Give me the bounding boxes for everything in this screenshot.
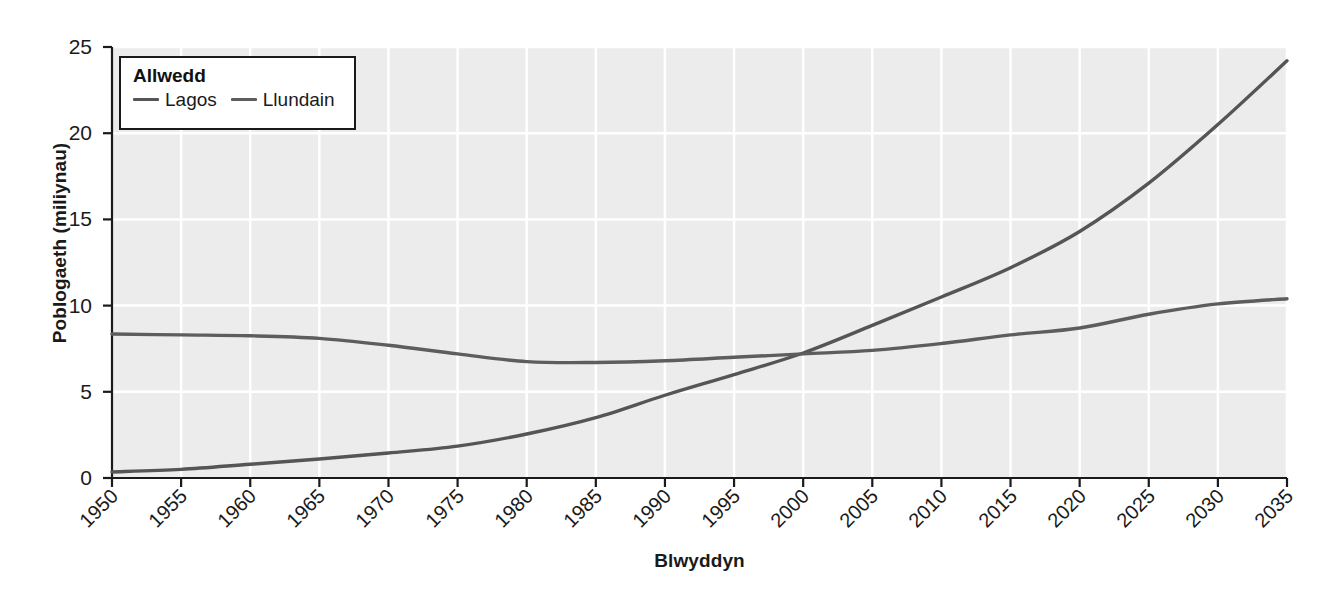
legend-swatch-icon — [231, 98, 257, 101]
legend-label: Llundain — [263, 90, 335, 109]
legend-entry-llundain: Llundain — [231, 90, 335, 109]
x-tick-label: 2035 — [1283, 455, 1329, 503]
legend-entry-lagos: Lagos — [133, 90, 217, 109]
x-axis-title: Blwyddyn — [112, 550, 1287, 572]
legend-label: Lagos — [165, 90, 217, 109]
legend-entries: LagosLlundain — [133, 90, 342, 109]
y-axis-title: Poblogaeth (miliynau) — [49, 33, 71, 453]
legend-swatch-icon — [133, 98, 159, 101]
line-chart: 0510152025 19501955196019651970197519801… — [0, 0, 1329, 605]
y-tick-label: 0 — [44, 467, 92, 488]
legend: Allwedd LagosLlundain — [119, 56, 356, 130]
legend-title: Allwedd — [133, 65, 342, 87]
